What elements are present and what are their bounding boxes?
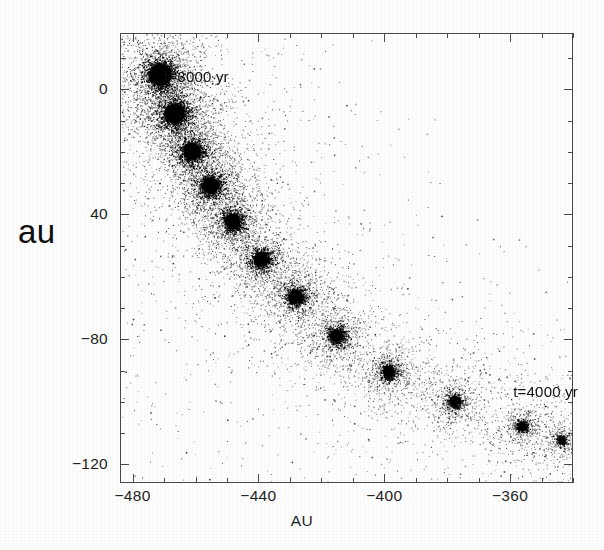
x-tick-bottom bbox=[416, 478, 417, 483]
x-tick-top bbox=[447, 33, 448, 38]
y-tick-right bbox=[568, 152, 573, 153]
x-tick-top bbox=[542, 33, 543, 38]
x-tick-bottom bbox=[227, 478, 228, 483]
x-tick-bottom bbox=[290, 478, 291, 483]
x-tick-top bbox=[353, 33, 354, 38]
y-tick-right bbox=[568, 277, 573, 278]
y-tick-left bbox=[120, 371, 125, 372]
y-tick-right bbox=[568, 433, 573, 434]
x-tick-bottom bbox=[573, 478, 574, 483]
y-tick-label: 40 bbox=[42, 205, 108, 223]
t-3000-label: t=3000 yr bbox=[164, 68, 229, 85]
y-tick-left bbox=[120, 121, 125, 122]
y-tick-left bbox=[120, 89, 129, 90]
y-tick-left bbox=[120, 214, 129, 215]
y-tick-right bbox=[564, 339, 573, 340]
y-tick-right bbox=[568, 183, 573, 184]
plot-frame bbox=[120, 33, 573, 483]
y-tick-right bbox=[564, 464, 573, 465]
x-tick-bottom bbox=[321, 478, 322, 483]
y-tick-left bbox=[120, 246, 125, 247]
x-tick-top bbox=[321, 33, 322, 38]
x-tick-bottom bbox=[384, 474, 385, 483]
t-4000-label: t=4000 yr bbox=[513, 383, 578, 400]
y-tick-left bbox=[120, 402, 125, 403]
y-tick-left bbox=[120, 277, 125, 278]
x-tick-label: −480 bbox=[115, 487, 151, 505]
x-tick-bottom bbox=[479, 478, 480, 483]
y-tick-right bbox=[564, 214, 573, 215]
x-axis-label: AU bbox=[0, 512, 604, 530]
y-tick-right bbox=[568, 308, 573, 309]
x-tick-top bbox=[510, 33, 511, 42]
x-tick-top bbox=[384, 33, 385, 42]
x-tick-top bbox=[479, 33, 480, 38]
y-tick-right bbox=[568, 121, 573, 122]
x-tick-bottom bbox=[353, 478, 354, 483]
x-tick-top bbox=[416, 33, 417, 38]
x-tick-label: −400 bbox=[366, 487, 402, 505]
x-tick-top bbox=[290, 33, 291, 38]
y-tick-left bbox=[120, 464, 129, 465]
x-tick-top bbox=[573, 33, 574, 38]
y-tick-right bbox=[568, 371, 573, 372]
x-tick-bottom bbox=[258, 474, 259, 483]
scatter-plot-figure: au −480−440−400−360040−80−120 t=3000 yrt… bbox=[0, 0, 604, 550]
scatter-points-canvas bbox=[121, 34, 573, 483]
y-tick-left bbox=[120, 339, 129, 340]
x-tick-top bbox=[196, 33, 197, 38]
y-tick-right bbox=[568, 246, 573, 247]
y-tick-label: −80 bbox=[42, 330, 108, 348]
y-tick-right bbox=[568, 402, 573, 403]
x-tick-label: −440 bbox=[240, 487, 276, 505]
y-tick-left bbox=[120, 433, 125, 434]
x-tick-bottom bbox=[133, 474, 134, 483]
x-tick-bottom bbox=[196, 478, 197, 483]
x-tick-top bbox=[133, 33, 134, 42]
x-tick-bottom bbox=[164, 478, 165, 483]
x-tick-bottom bbox=[510, 474, 511, 483]
y-tick-left bbox=[120, 308, 125, 309]
y-tick-left bbox=[120, 58, 125, 59]
y-tick-right bbox=[568, 58, 573, 59]
y-tick-left bbox=[120, 152, 125, 153]
x-tick-top bbox=[258, 33, 259, 42]
x-tick-label: −360 bbox=[492, 487, 528, 505]
x-tick-top bbox=[227, 33, 228, 38]
y-tick-left bbox=[120, 183, 125, 184]
x-tick-top bbox=[164, 33, 165, 38]
y-tick-label: 0 bbox=[42, 80, 108, 98]
x-tick-bottom bbox=[542, 478, 543, 483]
x-tick-bottom bbox=[447, 478, 448, 483]
y-tick-label: −120 bbox=[42, 455, 108, 473]
y-tick-right bbox=[564, 89, 573, 90]
